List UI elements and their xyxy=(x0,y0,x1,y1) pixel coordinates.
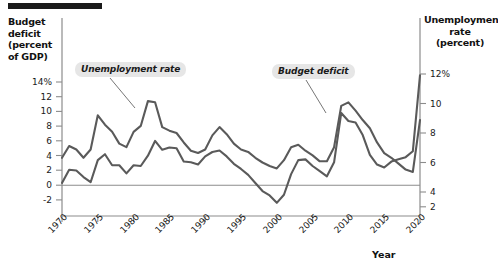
series-unemployment-rate xyxy=(62,101,420,172)
left-tick-label: 4 xyxy=(18,151,52,161)
leader-line-deficit xyxy=(306,80,326,113)
chart-figure: Budget deficit (percent of GDP) Unemploy… xyxy=(0,0,498,270)
right-tick-label: 8 xyxy=(430,128,436,138)
right-tick-label: 4 xyxy=(430,187,436,197)
right-tick-label: 6 xyxy=(430,158,436,168)
leader-line-unemployment xyxy=(110,78,135,108)
left-tick-label: 12 xyxy=(18,92,52,102)
right-tick-label: 2 xyxy=(430,202,436,212)
left-tick-label: -2 xyxy=(18,195,52,205)
left-tick-label: 14% xyxy=(18,77,52,87)
x-axis-title: Year xyxy=(372,249,396,260)
left-tick-label: 6 xyxy=(18,136,52,146)
left-tick-marks xyxy=(56,82,62,200)
plot-canvas xyxy=(0,0,498,270)
left-tick-label: 2 xyxy=(18,165,52,175)
left-tick-label: 0 xyxy=(18,180,52,190)
right-tick-label: 12% xyxy=(430,69,450,79)
annotation-budget-deficit: Budget deficit xyxy=(272,64,355,79)
left-tick-label: 8 xyxy=(18,121,52,131)
annotation-unemployment-rate: Unemployment rate xyxy=(75,62,186,77)
left-tick-label: 10 xyxy=(18,106,52,116)
right-tick-marks xyxy=(420,74,426,207)
right-tick-label: 10 xyxy=(430,99,441,109)
